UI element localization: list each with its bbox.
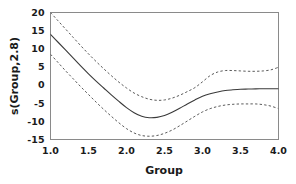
- x-tick-label: 1.5: [80, 145, 97, 156]
- x-tick-label: 3.5: [232, 145, 249, 156]
- x-tick-label: 2.0: [118, 145, 135, 156]
- y-tick-label: -10: [27, 116, 45, 127]
- gam-smooth-plot-figure: 20151050-5-10-15 1.01.52.02.53.03.54.0 s…: [0, 0, 296, 184]
- y-tick-label: 0: [38, 79, 45, 90]
- x-tick-label: 3.0: [194, 145, 211, 156]
- chart-canvas: 20151050-5-10-15 1.01.52.02.53.03.54.0 s…: [0, 0, 296, 184]
- y-tick-label: 10: [31, 43, 45, 54]
- x-axis-title: Group: [145, 164, 183, 177]
- y-tick-label: 20: [31, 7, 45, 18]
- y-tick-label: 15: [31, 25, 44, 36]
- x-tick-label: 4.0: [270, 145, 287, 156]
- x-tick-label: 1.0: [42, 145, 59, 156]
- y-axis-title: s(Group,2.8): [8, 37, 21, 115]
- y-tick-label: -15: [27, 134, 44, 145]
- y-tick-label: -5: [34, 98, 45, 109]
- x-tick-label: 2.5: [156, 145, 173, 156]
- y-tick-label: 5: [38, 61, 45, 72]
